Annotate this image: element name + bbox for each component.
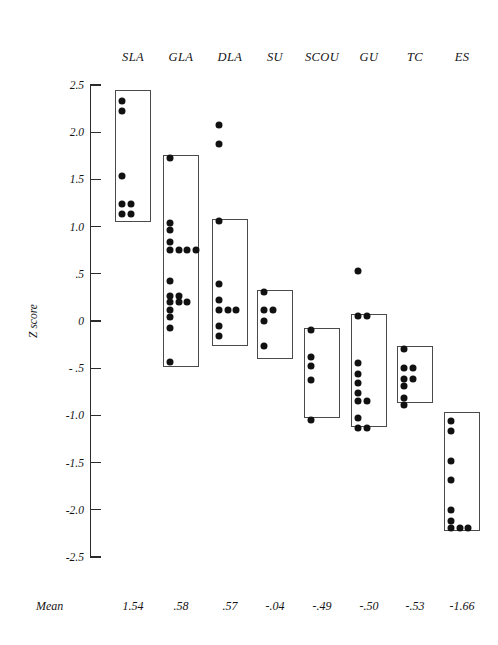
y-axis-tick-label: -1.5 — [42, 457, 84, 469]
data-point — [119, 200, 126, 207]
column-header-dla: DLA — [218, 50, 243, 65]
data-point — [192, 247, 199, 254]
data-point — [167, 247, 174, 254]
z-score-dot-plot: SLAGLADLASUSCOUGUTCES 2.52.01.51.0.50- .… — [0, 0, 498, 645]
data-point — [233, 306, 240, 313]
data-point — [119, 98, 126, 105]
mean-value-gu: -.50 — [360, 599, 379, 614]
data-point — [261, 343, 268, 350]
column-header-scou: SCOU — [305, 50, 339, 65]
data-point — [261, 288, 268, 295]
data-point — [216, 217, 223, 224]
data-point — [216, 121, 223, 128]
data-point — [184, 299, 191, 306]
y-axis-tick-label: -1.0 — [42, 409, 84, 421]
data-point — [448, 428, 455, 435]
data-point — [308, 377, 315, 384]
y-axis-tick-label: 1.5 — [42, 173, 84, 185]
data-point — [355, 370, 362, 377]
data-point — [456, 524, 463, 531]
data-point — [175, 299, 182, 306]
data-point — [308, 353, 315, 360]
data-point — [448, 418, 455, 425]
column-header-gu: GU — [360, 50, 379, 65]
data-point — [167, 238, 174, 245]
y-axis-tick — [90, 509, 101, 510]
mean-value-scou: -.49 — [313, 599, 332, 614]
column-header-sla: SLA — [122, 50, 144, 65]
data-point — [401, 383, 408, 390]
data-point — [363, 313, 370, 320]
data-point — [355, 415, 362, 422]
data-point — [261, 318, 268, 325]
data-point — [355, 380, 362, 387]
y-axis-tick-label: 2.5 — [42, 79, 84, 91]
data-point — [448, 506, 455, 513]
data-point — [119, 172, 126, 179]
data-point — [216, 333, 223, 340]
data-point — [119, 108, 126, 115]
data-point — [401, 375, 408, 382]
y-axis-tick — [90, 226, 101, 227]
range-box-scou — [304, 328, 340, 419]
data-point — [355, 398, 362, 405]
data-point — [308, 417, 315, 424]
data-point — [119, 211, 126, 218]
y-axis-tick-label: .5 — [42, 268, 84, 280]
data-point — [127, 211, 134, 218]
data-point — [409, 375, 416, 382]
data-point — [167, 358, 174, 365]
data-point — [355, 360, 362, 367]
y-axis-tick — [90, 368, 101, 369]
data-point — [448, 457, 455, 464]
data-point — [308, 363, 315, 370]
data-point — [167, 299, 174, 306]
y-axis-tick — [90, 132, 101, 133]
column-header-tc: TC — [407, 50, 423, 65]
data-point — [448, 524, 455, 531]
data-point — [216, 281, 223, 288]
y-axis-tick-label: 2.0 — [42, 126, 84, 138]
data-point — [261, 306, 268, 313]
data-point — [216, 140, 223, 147]
mean-value-sla: 1.54 — [123, 599, 144, 614]
data-point — [216, 322, 223, 329]
data-point — [355, 389, 362, 396]
data-point — [216, 306, 223, 313]
column-header-gla: GLA — [169, 50, 194, 65]
y-axis-tick — [90, 415, 101, 416]
data-point — [167, 306, 174, 313]
data-point — [355, 267, 362, 274]
data-point — [401, 402, 408, 409]
y-axis-tick-label: 0 — [42, 315, 84, 327]
data-point — [401, 346, 408, 353]
y-axis-tick-label: -2.0 — [42, 504, 84, 516]
data-point — [224, 306, 231, 313]
data-point — [448, 476, 455, 483]
y-axis-title: Z score — [27, 304, 39, 338]
y-axis-tick-label: 1.0 — [42, 221, 84, 233]
mean-row-label: Mean — [36, 599, 63, 614]
data-point — [167, 278, 174, 285]
column-header-es: ES — [455, 50, 470, 65]
y-axis-tick — [90, 179, 101, 180]
data-point — [269, 306, 276, 313]
y-axis-tick-label: - .5 — [42, 362, 84, 374]
mean-value-gla: .58 — [174, 599, 189, 614]
y-axis-tick — [90, 320, 101, 321]
data-point — [167, 154, 174, 161]
mean-value-su: -.04 — [266, 599, 285, 614]
data-point — [363, 398, 370, 405]
data-point — [175, 247, 182, 254]
y-axis-tick — [90, 84, 101, 85]
mean-value-dla: .57 — [223, 599, 238, 614]
y-axis-tick-label: -2.5 — [42, 551, 84, 563]
y-axis-tick — [90, 556, 101, 557]
data-point — [167, 314, 174, 321]
mean-value-es: -1.66 — [450, 599, 475, 614]
data-point — [363, 424, 370, 431]
data-point — [167, 219, 174, 226]
data-point — [167, 227, 174, 234]
data-point — [355, 424, 362, 431]
mean-value-tc: -.53 — [406, 599, 425, 614]
